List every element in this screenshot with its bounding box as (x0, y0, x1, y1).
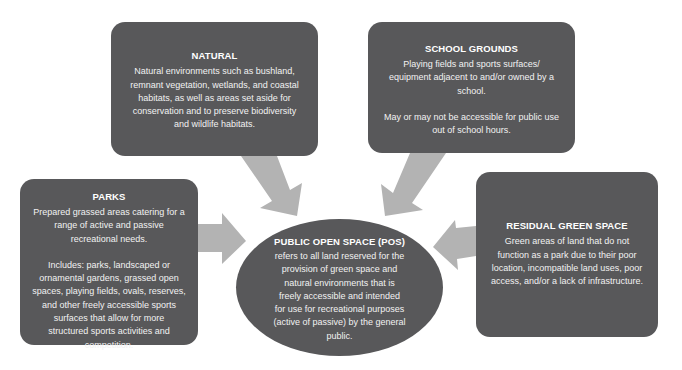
parks-includes-note: Includes: parks, landscaped or ornamenta… (32, 259, 186, 352)
residual-green-space-title: RESIDUAL GREEN SPACE (506, 220, 627, 231)
natural-description: Natural environments such as bushland, r… (130, 65, 299, 131)
school-grounds-title: SCHOOL GROUNDS (425, 43, 518, 54)
residual-green-space-box: RESIDUAL GREEN SPACE Green areas of land… (476, 172, 658, 337)
arrow-residual-to-pos (433, 220, 476, 270)
parks-description: Prepared grassed areas catering for a ra… (33, 206, 185, 246)
pos-definition: refers to all land reserved for the prov… (273, 250, 405, 342)
public-open-space-ellipse: PUBLIC OPEN SPACE (POS) refers to all la… (236, 219, 443, 356)
school-grounds-description: Playing fields and sports surfaces/ equi… (389, 58, 554, 98)
residual-green-space-description: Green areas of land that do not function… (491, 235, 643, 288)
arrow-natural-to-pos (241, 156, 302, 216)
school-grounds-note: May or may not be accessible for public … (384, 111, 559, 138)
pos-title: PUBLIC OPEN SPACE (POS) (274, 236, 405, 247)
arrow-parks-to-pos (198, 213, 246, 264)
arrow-school-to-pos (381, 153, 446, 216)
parks-box: PARKS Prepared grassed areas catering fo… (20, 179, 198, 345)
natural-title: NATURAL (192, 50, 238, 61)
natural-box: NATURAL Natural environments such as bus… (111, 22, 318, 156)
school-grounds-box: SCHOOL GROUNDS Playing fields and sports… (368, 22, 575, 153)
parks-title: PARKS (92, 191, 125, 202)
